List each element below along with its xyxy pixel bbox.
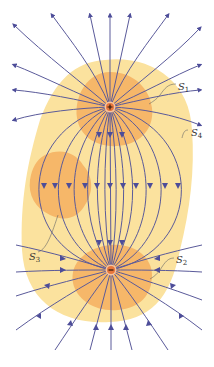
dipole-field-diagram: S1 S4 S3 S2 bbox=[0, 0, 214, 367]
negative-charge bbox=[106, 265, 117, 276]
label-s4: S4 bbox=[191, 127, 203, 140]
label-s2: S2 bbox=[176, 254, 187, 267]
positive-charge bbox=[105, 102, 116, 113]
